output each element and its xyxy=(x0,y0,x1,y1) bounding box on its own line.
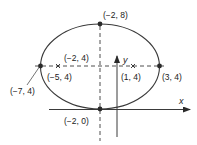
right-focus-label: (1, 4) xyxy=(121,72,141,82)
left-vertex-label: (−7, 4) xyxy=(10,86,35,96)
left-vertex-point xyxy=(38,64,43,69)
y-axis-label: y xyxy=(122,55,128,65)
right-vertex-point xyxy=(157,64,162,69)
leader-line xyxy=(27,66,40,85)
bottom-covertex-label: (−2, 0) xyxy=(64,116,89,126)
right-vertex-label: (3, 4) xyxy=(162,72,182,82)
top-covertex-point xyxy=(98,22,103,27)
center-label: (−2, 4) xyxy=(64,53,89,63)
top-covertex-label: (−2, 8) xyxy=(103,10,128,20)
ellipse-diagram: (−2, 8) (−2, 0) (−2, 4) (−5, 4) (1, 4) (… xyxy=(0,0,197,145)
bottom-covertex-point xyxy=(98,107,103,112)
x-axis-label: x xyxy=(178,96,184,106)
left-focus-label: (−5, 4) xyxy=(47,72,72,82)
